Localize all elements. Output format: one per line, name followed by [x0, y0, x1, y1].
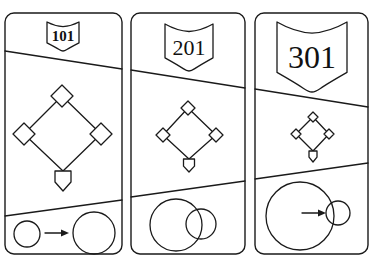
panel-101: 101 [5, 13, 122, 254]
three-panel-diagram: 101 201 301 [0, 0, 371, 261]
diagram-canvas: 101 201 301 [0, 0, 371, 261]
shield-label: 301 [288, 39, 336, 75]
panel-201: 201 [131, 13, 245, 254]
shield-label: 101 [52, 28, 75, 44]
panel-301: 301 [255, 13, 368, 254]
shield-label: 201 [173, 35, 206, 60]
